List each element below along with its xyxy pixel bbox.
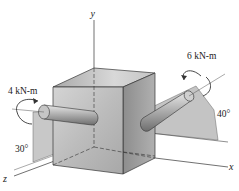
- left-angle-label: 30°: [15, 144, 29, 154]
- torque-cube-diagram: z y x 4 kN-m 30°: [0, 0, 239, 191]
- y-axis-label: y: [90, 8, 96, 19]
- z-axis-label: z: [2, 173, 7, 184]
- left-torque-label: 4 kN-m: [8, 86, 38, 96]
- right-angle-label: 40°: [217, 109, 231, 119]
- y-axis: y: [90, 8, 96, 68]
- right-torque-label: 6 kN-m: [187, 51, 217, 61]
- cube-front-face: [53, 87, 123, 174]
- x-axis-label: x: [228, 161, 234, 172]
